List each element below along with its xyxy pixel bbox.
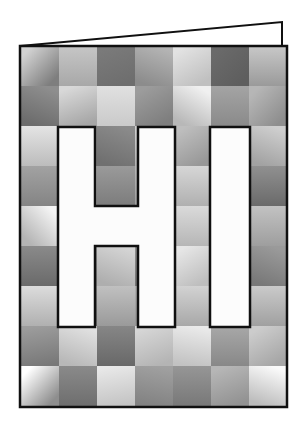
grid-cell [59, 326, 97, 366]
greeting-card-illustration [0, 0, 308, 429]
grid-cell [97, 246, 135, 286]
grid-cell [21, 286, 59, 326]
grid-cell [135, 366, 173, 406]
grid-cell [97, 326, 135, 366]
grid-cell [249, 366, 287, 406]
grid-cell [249, 286, 287, 326]
grid-cell [21, 126, 59, 166]
grid-cell [211, 86, 249, 126]
grid-cell [59, 46, 97, 86]
grid-cell [97, 86, 135, 126]
grid-cell [249, 206, 287, 246]
grid-cell [21, 86, 59, 126]
grid-cell [97, 286, 135, 326]
grid-cell [59, 86, 97, 126]
grid-cell [173, 246, 211, 286]
grid-cell [59, 366, 97, 406]
grid-cell [21, 166, 59, 206]
illustration-canvas [0, 0, 308, 429]
grid-cell [97, 166, 135, 206]
grid-cell [211, 46, 249, 86]
grid-cell [97, 46, 135, 86]
grid-cell [211, 366, 249, 406]
grid-cell [21, 206, 59, 246]
grid-cell [97, 126, 135, 166]
grid-cell [211, 326, 249, 366]
grid-cell [135, 86, 173, 126]
grid-cell [97, 366, 135, 406]
grid-cell [173, 166, 211, 206]
grid-cell [21, 326, 59, 366]
grid-cell [249, 246, 287, 286]
grid-cell [249, 166, 287, 206]
grid-cell [21, 246, 59, 286]
grid-cell [173, 206, 211, 246]
grid-cell [249, 126, 287, 166]
grid-cell [21, 366, 59, 406]
grid-cell [173, 286, 211, 326]
grid-cell [173, 46, 211, 86]
grid-cell [173, 326, 211, 366]
grid-cell [249, 46, 287, 86]
grid-cell [173, 366, 211, 406]
grid-cell [249, 86, 287, 126]
grid-cell [135, 46, 173, 86]
grid-cell [173, 86, 211, 126]
grid-cell [21, 46, 59, 86]
card-vector-graphic [0, 0, 308, 429]
grid-cell [135, 326, 173, 366]
grid-cell [173, 126, 211, 166]
letter-i-glyph [210, 127, 250, 327]
grid-cell [249, 326, 287, 366]
